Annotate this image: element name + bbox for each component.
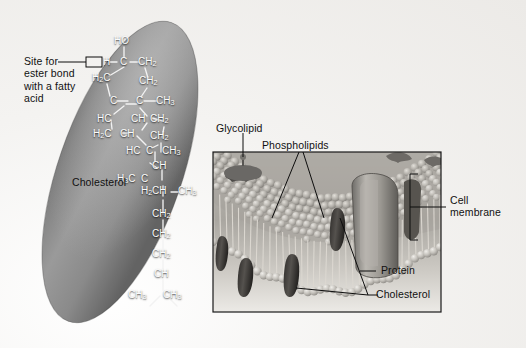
atom-c3: C (136, 96, 143, 106)
cholesterol-capsule-shape (10, 2, 230, 341)
atom-ch2-2: CH2 (139, 76, 158, 88)
atom-ch3-4: CH3 (128, 290, 147, 302)
membrane-protein-small-shape (404, 179, 421, 239)
artwork-layer (0, 0, 526, 348)
atom-h2c-2: H2C (93, 129, 112, 141)
atom-ch2-3: CH2 (150, 114, 169, 126)
atom-c2: C (110, 96, 117, 106)
label-glycolipid: Glycolipid (216, 122, 263, 134)
atom-c4: C (146, 146, 153, 156)
atom-h2-low: H2 (141, 186, 152, 198)
atom-hydroxyl: HO (114, 36, 129, 46)
atom-ch2-4: CH2 (150, 131, 169, 143)
atom-ch2-5: CH2 (152, 209, 171, 221)
label-ester-bond-site: Site for ester bond with a fatty acid (24, 55, 94, 105)
atom-ch3-5: CH3 (163, 290, 182, 302)
atom-h-ester: H (103, 57, 110, 67)
atom-ch2-6: CH2 (152, 229, 171, 241)
cell-membrane-panel (202, 137, 452, 312)
atom-c5: C (141, 174, 148, 184)
atom-ch3-3: CH3 (178, 186, 197, 198)
label-cholesterol-molecule: Cholesterol (72, 176, 126, 188)
label-protein: Protein (381, 264, 415, 276)
label-cell-membrane: Cell membrane (450, 194, 501, 219)
membrane-protein-shape (352, 174, 398, 278)
atom-ch-2: CH (120, 129, 134, 139)
atom-ch-1: CH (131, 114, 145, 124)
atom-c1: C (120, 57, 127, 67)
label-cholesterol-membrane: Cholesterol (376, 288, 430, 300)
atom-ch3-2: CH3 (162, 146, 181, 158)
atom-h2c-1: H2C (92, 73, 111, 85)
atom-ch2-1: CH2 (138, 57, 157, 69)
atom-ch2-7: CH2 (152, 249, 171, 261)
atom-ch-4: CH (152, 186, 166, 196)
atom-hc-1: HC (97, 114, 111, 124)
atom-hc-2: HC (126, 146, 140, 156)
label-phospholipids: Phospholipids (262, 139, 329, 151)
atom-ch-3: CH (152, 161, 166, 171)
atom-ch3-1: CH3 (156, 96, 175, 108)
figure-canvas: HO H C CH2 H2C CH2 C C CH3 HC CH CH2 H2C… (0, 0, 526, 348)
atom-ch-5: CH (154, 269, 168, 279)
